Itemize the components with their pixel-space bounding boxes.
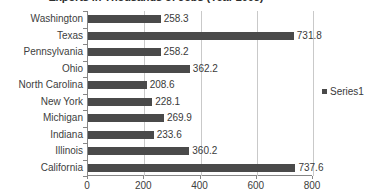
category-label: Washington xyxy=(0,13,83,24)
bar[interactable] xyxy=(88,147,189,155)
bar[interactable] xyxy=(88,32,294,40)
legend-label-series1: Series1 xyxy=(330,86,364,97)
bar-value-label: 731.8 xyxy=(297,31,322,41)
bar-value-label: 269.9 xyxy=(167,113,192,123)
bar-value-label: 362.2 xyxy=(193,64,218,74)
category-label: Pennsylvania xyxy=(0,46,83,57)
category-label: Indiana xyxy=(0,129,83,140)
bar[interactable] xyxy=(88,98,152,106)
y-axis-tick xyxy=(83,110,87,111)
y-axis-tick xyxy=(83,160,87,161)
bar[interactable] xyxy=(88,164,295,172)
category-axis-labels: WashingtonTexasPennsylvaniaOhioNorth Car… xyxy=(0,11,83,176)
y-axis-tick xyxy=(83,44,87,45)
bar[interactable] xyxy=(88,15,161,23)
category-label: Michigan xyxy=(0,112,83,123)
y-axis-tick xyxy=(83,77,87,78)
y-axis-tick xyxy=(83,11,87,12)
legend-swatch-series1 xyxy=(322,89,327,94)
x-axis-label: 600 xyxy=(247,180,264,191)
chart-title: Exports in Thousands of Jobs (Year 2005) xyxy=(0,0,312,3)
category-label: North Carolina xyxy=(0,79,83,90)
y-axis-tick xyxy=(83,127,87,128)
x-axis-label: 0 xyxy=(84,180,90,191)
x-axis-tick xyxy=(87,176,88,179)
y-axis-tick xyxy=(83,28,87,29)
category-label: Texas xyxy=(0,30,83,41)
x-axis-tick xyxy=(312,176,313,179)
x-axis-tick xyxy=(143,176,144,179)
y-axis-tick xyxy=(83,61,87,62)
category-label: New York xyxy=(0,96,83,107)
bar-value-label: 208.6 xyxy=(150,80,175,90)
chart-legend[interactable]: Series1 xyxy=(322,86,364,97)
bar-value-label: 258.3 xyxy=(164,14,189,24)
bar[interactable] xyxy=(88,65,190,73)
bar[interactable] xyxy=(88,114,164,122)
x-axis-label: 800 xyxy=(304,180,321,191)
x-axis-label: 400 xyxy=(191,180,208,191)
x-axis-tick xyxy=(200,176,201,179)
category-label: Illinois xyxy=(0,145,83,156)
bar-chart: Exports in Thousands of Jobs (Year 2005)… xyxy=(0,0,378,194)
bar-value-label: 258.2 xyxy=(164,47,189,57)
bar[interactable] xyxy=(88,131,154,139)
bar[interactable] xyxy=(88,81,147,89)
y-axis-tick xyxy=(83,94,87,95)
x-axis-label: 200 xyxy=(135,180,152,191)
bar-value-label: 228.1 xyxy=(155,97,180,107)
category-label: Ohio xyxy=(0,63,83,74)
x-axis-tick xyxy=(256,176,257,179)
bar[interactable] xyxy=(88,48,161,56)
bar-value-label: 233.6 xyxy=(157,130,182,140)
y-axis-tick xyxy=(83,143,87,144)
category-label: California xyxy=(0,162,83,173)
bar-value-label: 737.6 xyxy=(298,163,323,173)
bar-value-label: 360.2 xyxy=(192,146,217,156)
